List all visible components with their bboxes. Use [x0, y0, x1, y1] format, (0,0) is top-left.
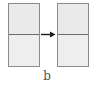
- before-panel: [8, 3, 40, 67]
- before-panel-top-cell: [9, 4, 39, 34]
- diagram-figure: b: [0, 0, 94, 85]
- after-panel-bottom-cell: [58, 35, 88, 66]
- before-panel-bottom-cell: [9, 35, 39, 66]
- figure-caption: b: [0, 69, 94, 83]
- after-panel: [57, 3, 89, 67]
- after-panel-top-cell: [58, 4, 88, 34]
- arrow-right-icon: [41, 31, 56, 38]
